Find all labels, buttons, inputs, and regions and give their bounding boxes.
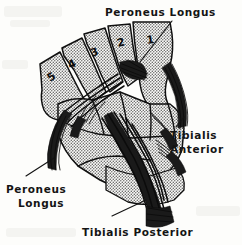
label-text-line2: Anterior xyxy=(170,143,224,155)
label-peroneus-longus-top: Peroneus Longus xyxy=(105,6,216,18)
label-text: Peroneus Longus xyxy=(105,6,216,18)
anatomical-figure: 1 2 3 4 5 Peroneus Longus Tibialis Anter… xyxy=(0,0,242,245)
label-text-line2: Longus xyxy=(18,197,64,209)
label-text-line1: Tibialis xyxy=(170,129,217,141)
label-text-line1: Peroneus xyxy=(6,183,66,195)
label-tibialis-posterior: Tibialis Posterior xyxy=(82,226,194,238)
label-text: Tibialis Posterior xyxy=(82,226,194,238)
